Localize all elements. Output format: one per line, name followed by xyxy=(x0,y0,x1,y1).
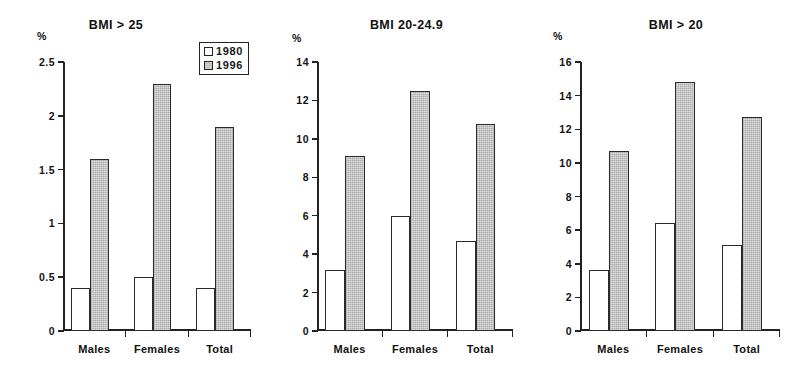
x-axis-category-label: Males xyxy=(334,343,366,355)
plot-area: 0246810121416MalesFemalesTotal xyxy=(580,62,780,331)
legend-label: 1996 xyxy=(216,60,243,71)
y-axis-tick xyxy=(58,223,64,225)
y-axis-tick-label: 8 xyxy=(303,171,309,183)
chart-panel-bmi-over-20: BMI > 20 % 0246810121416MalesFemalesTota… xyxy=(533,0,803,370)
y-axis-unit-label: % xyxy=(292,32,301,44)
white-square-icon xyxy=(204,47,213,56)
x-axis-tick xyxy=(646,331,648,337)
y-axis-tick-label: 14 xyxy=(296,56,309,68)
y-axis-tick xyxy=(312,253,318,255)
x-axis-category-label: Females xyxy=(657,343,703,355)
bar-males-1980 xyxy=(71,288,90,331)
chart-title: BMI > 20 xyxy=(541,18,803,32)
chart-title: BMI 20-24.9 xyxy=(274,18,539,32)
y-axis-tick xyxy=(575,229,581,231)
bar-total-1996 xyxy=(742,117,762,331)
y-axis-tick-label: 6 xyxy=(303,210,309,222)
y-axis xyxy=(317,62,319,331)
y-axis-tick xyxy=(575,263,581,265)
legend-label: 1980 xyxy=(216,46,243,57)
x-axis-tick xyxy=(779,331,781,337)
bar-males-1996 xyxy=(345,156,365,331)
y-axis-tick xyxy=(575,297,581,299)
chart-legend: 1980 1996 xyxy=(199,42,249,75)
y-axis-tick xyxy=(575,95,581,97)
gray-square-icon xyxy=(204,61,213,70)
bar-females-1996 xyxy=(153,84,172,331)
y-axis-tick-label: 6 xyxy=(566,224,572,236)
y-axis-unit-label: % xyxy=(37,30,46,42)
x-axis-category-label: Males xyxy=(597,343,629,355)
chart-panel-bmi-20-24-9: BMI 20-24.9 % 02468101214MalesFemalesTot… xyxy=(268,0,533,370)
x-axis-tick xyxy=(250,331,252,337)
y-axis-tick-label: 4 xyxy=(566,258,572,270)
y-axis-tick-label: 0 xyxy=(49,325,55,337)
x-axis-category-label: Total xyxy=(206,343,233,355)
y-axis-tick-label: 14 xyxy=(559,90,572,102)
bar-males-1996 xyxy=(90,159,109,331)
y-axis-tick-label: 2.5 xyxy=(39,56,55,68)
y-axis-tick-label: 0.5 xyxy=(39,271,55,283)
y-axis-tick-label: 1.5 xyxy=(39,164,55,176)
bar-males-1996 xyxy=(609,151,629,331)
legend-item-1996: 1996 xyxy=(204,60,243,71)
y-axis-tick xyxy=(575,162,581,164)
y-axis-tick xyxy=(575,61,581,63)
legend-item-1980: 1980 xyxy=(204,46,243,57)
bar-total-1980 xyxy=(456,241,476,331)
y-axis-tick xyxy=(58,330,64,332)
y-axis-tick-label: 2 xyxy=(49,110,55,122)
x-axis-category-label: Total xyxy=(467,343,494,355)
y-axis-tick-label: 12 xyxy=(559,123,572,135)
y-axis-tick-label: 4 xyxy=(303,248,309,260)
bar-females-1980 xyxy=(655,223,675,331)
y-axis-tick xyxy=(312,330,318,332)
y-axis-tick-label: 1 xyxy=(49,217,55,229)
bar-males-1980 xyxy=(325,270,345,331)
x-axis-category-label: Females xyxy=(392,343,438,355)
y-axis-tick xyxy=(58,276,64,278)
y-axis-tick xyxy=(575,129,581,131)
bmi-prevalence-figure: BMI > 25 % 00.511.522.5MalesFemalesTotal… xyxy=(0,0,803,370)
x-axis-tick xyxy=(382,331,384,337)
y-axis-tick-label: 2 xyxy=(303,287,309,299)
x-axis-category-label: Total xyxy=(733,343,760,355)
y-axis xyxy=(63,62,65,331)
y-axis-tick xyxy=(58,169,64,171)
bar-females-1980 xyxy=(391,216,411,331)
bar-females-1996 xyxy=(675,82,695,331)
y-axis-tick-label: 0 xyxy=(303,325,309,337)
y-axis-tick xyxy=(58,61,64,63)
y-axis-tick xyxy=(575,330,581,332)
y-axis-tick xyxy=(312,215,318,217)
y-axis-tick xyxy=(312,61,318,63)
y-axis-tick-label: 16 xyxy=(559,56,572,68)
chart-panel-bmi-over-25: BMI > 25 % 00.511.522.5MalesFemalesTotal… xyxy=(0,0,268,370)
x-axis-category-label: Males xyxy=(78,343,110,355)
x-axis-tick xyxy=(447,331,449,337)
bar-total-1980 xyxy=(722,245,742,331)
y-axis-tick xyxy=(312,177,318,179)
bar-total-1996 xyxy=(476,124,496,332)
y-axis-tick xyxy=(312,138,318,140)
plot-area: 00.511.522.5MalesFemalesTotal xyxy=(63,62,251,331)
bar-total-1996 xyxy=(215,127,234,331)
y-axis-tick xyxy=(575,196,581,198)
y-axis-unit-label: % xyxy=(553,30,562,42)
y-axis-tick-label: 0 xyxy=(566,325,572,337)
x-axis-tick xyxy=(713,331,715,337)
bar-males-1980 xyxy=(589,270,609,331)
y-axis-tick-label: 10 xyxy=(559,157,572,169)
y-axis-tick-label: 10 xyxy=(296,133,309,145)
y-axis-tick xyxy=(58,115,64,117)
y-axis-tick-label: 8 xyxy=(566,191,572,203)
bar-total-1980 xyxy=(196,288,215,331)
y-axis-tick xyxy=(312,100,318,102)
x-axis-tick xyxy=(125,331,127,337)
x-axis-tick xyxy=(512,331,514,337)
bar-females-1980 xyxy=(134,277,153,331)
y-axis-tick xyxy=(312,292,318,294)
x-axis-tick xyxy=(188,331,190,337)
y-axis-tick-label: 2 xyxy=(566,291,572,303)
bar-females-1996 xyxy=(410,91,430,331)
